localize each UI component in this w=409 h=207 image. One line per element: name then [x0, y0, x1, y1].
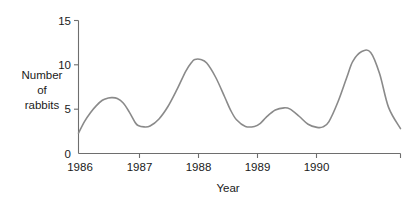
y-tick-label-0: 0 — [65, 148, 71, 160]
y-tick-label-5: 5 — [65, 103, 71, 115]
chart-canvas: Number of rabbits 15 10 5 0 1986 1987 19… — [0, 0, 409, 207]
x-tick-label-1986: 1986 — [67, 161, 93, 173]
x-axis-title: Year — [216, 182, 239, 194]
y-axis-label-line-1: Number — [22, 69, 63, 81]
x-tick-label-1988: 1988 — [186, 161, 212, 173]
y-tick-label-15: 15 — [58, 15, 71, 27]
x-tick-label-1990: 1990 — [304, 161, 330, 173]
y-axis-label-line-3: rabbits — [25, 99, 60, 111]
y-tick-label-10: 10 — [58, 59, 71, 71]
x-tick-label-1989: 1989 — [245, 161, 271, 173]
rabbit-population-line — [79, 50, 401, 133]
y-axis-label-line-2: of — [37, 84, 47, 96]
rabbit-population-chart: Number of rabbits 15 10 5 0 1986 1987 19… — [0, 0, 409, 207]
x-tick-label-1987: 1987 — [127, 161, 153, 173]
